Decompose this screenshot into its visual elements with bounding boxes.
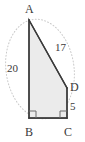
vertex-label-d: D [70, 81, 79, 93]
vertex-label-c: C [64, 126, 72, 138]
side-length-label-ab: 20 [7, 63, 18, 74]
vertex-label-b: B [25, 126, 33, 138]
vertex-label-a: A [25, 3, 34, 15]
geometry-figure: A B C D 20 17 5 [0, 0, 85, 142]
side-length-label-ad: 17 [55, 42, 66, 53]
trapezoid-shape [29, 20, 67, 118]
side-length-label-dc: 5 [70, 101, 76, 112]
